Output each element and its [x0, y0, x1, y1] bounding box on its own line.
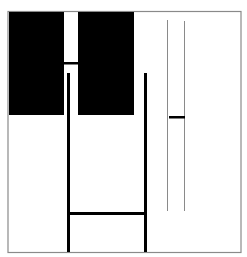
block-left [9, 12, 64, 115]
thin-pair-bar [169, 116, 185, 119]
post-left [67, 73, 70, 252]
crossbar [70, 212, 144, 215]
block-right [78, 12, 134, 115]
connector-bar [64, 62, 78, 65]
thin-line-left [167, 20, 168, 211]
post-right [144, 73, 147, 252]
abstract-figure [0, 0, 247, 257]
